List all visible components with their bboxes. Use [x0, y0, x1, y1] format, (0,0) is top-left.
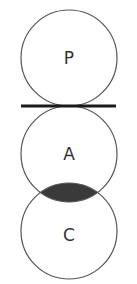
label-p: P	[64, 48, 74, 68]
circle-diagram: P A C	[0, 0, 137, 284]
label-a: A	[63, 144, 75, 164]
label-c: C	[63, 225, 75, 245]
diagram-canvas: P A C	[0, 0, 137, 284]
